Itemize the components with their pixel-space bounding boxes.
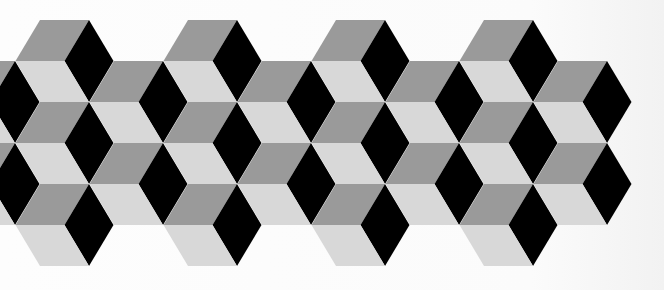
tumbling-blocks-pattern xyxy=(0,0,664,290)
tiling-canvas xyxy=(0,0,664,290)
